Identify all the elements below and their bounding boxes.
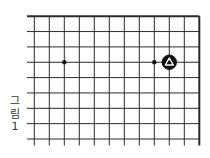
- stones: [162, 55, 176, 69]
- board-grid: [27, 16, 199, 145]
- caption-char-1: 그: [8, 96, 22, 109]
- star-point: [62, 60, 66, 64]
- figure-caption: 그 림 1: [8, 96, 22, 134]
- go-board-diagram: [0, 0, 210, 158]
- black-stone: [162, 55, 176, 69]
- caption-char-3: 1: [8, 121, 22, 134]
- star-point: [152, 60, 156, 64]
